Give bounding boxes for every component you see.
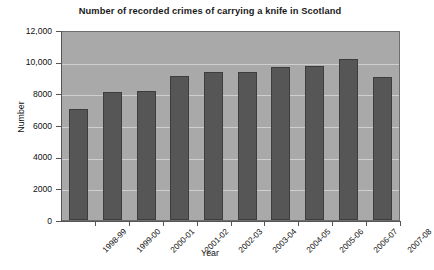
x-tick-mark <box>231 222 232 226</box>
bar <box>339 59 358 221</box>
y-tick-label: 6000 <box>0 122 52 131</box>
y-tick-label: 2000 <box>0 185 52 194</box>
bar <box>137 91 156 220</box>
x-axis-title: Year <box>0 248 420 258</box>
y-tick-mark <box>56 189 61 190</box>
plot-area <box>61 31 400 221</box>
bar <box>238 72 257 220</box>
x-tick-mark <box>298 222 299 226</box>
x-tick-mark <box>129 222 130 226</box>
y-tick-label: 8000 <box>0 90 52 99</box>
bar <box>305 66 324 220</box>
bar <box>271 67 290 220</box>
bar <box>170 76 189 220</box>
x-tick-mark <box>264 222 265 226</box>
x-tick-mark <box>95 222 96 226</box>
chart-title: Number of recorded crimes of carrying a … <box>0 6 420 16</box>
bar <box>204 72 223 220</box>
x-tick-mark <box>400 222 401 226</box>
bar <box>69 109 88 220</box>
x-tick-mark <box>197 222 198 226</box>
bar <box>103 92 122 220</box>
y-tick-label: 0 <box>0 217 52 226</box>
y-tick-label: 4000 <box>0 153 52 162</box>
y-tick-mark <box>56 94 61 95</box>
y-tick-mark <box>56 126 61 127</box>
y-tick-mark <box>56 158 61 159</box>
bars-container <box>62 32 399 220</box>
y-tick-label: 10,000 <box>0 58 52 67</box>
bar <box>373 77 392 220</box>
y-tick-label: 12,000 <box>0 27 52 36</box>
x-tick-mark <box>163 222 164 226</box>
y-tick-mark <box>56 63 61 64</box>
x-tick-mark <box>332 222 333 226</box>
y-tick-mark <box>56 31 61 32</box>
x-tick-mark <box>366 222 367 226</box>
y-axis-line <box>61 31 62 222</box>
y-axis-title: Number <box>16 87 26 147</box>
